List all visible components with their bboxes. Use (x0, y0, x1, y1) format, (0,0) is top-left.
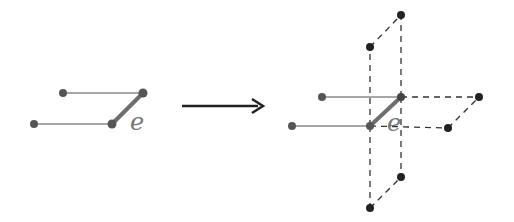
node (444, 124, 452, 132)
node (318, 93, 326, 101)
node (288, 122, 296, 130)
node (366, 204, 374, 212)
node (59, 89, 67, 97)
node (139, 89, 148, 98)
node (397, 173, 405, 181)
edge-label-e: e (130, 108, 144, 136)
node (30, 120, 38, 128)
node (366, 122, 374, 130)
node (366, 43, 374, 51)
right-graph: e (288, 11, 483, 212)
node (475, 93, 483, 101)
graph-transformation-diagram: e e (0, 0, 514, 222)
edge-label-e: e (387, 109, 401, 137)
arrow (182, 99, 263, 113)
node (108, 120, 117, 129)
left-graph: e (30, 89, 148, 137)
node (397, 93, 405, 101)
node (397, 11, 405, 19)
